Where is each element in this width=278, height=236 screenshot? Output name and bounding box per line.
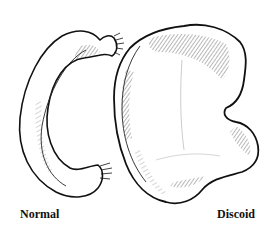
normal-label: Normal — [20, 207, 59, 221]
discoid-label: Discoid — [217, 207, 255, 221]
discoid-meniscus-drawing — [114, 25, 258, 203]
normal-meniscus-drawing — [20, 31, 124, 197]
meniscus-illustration — [0, 0, 278, 236]
